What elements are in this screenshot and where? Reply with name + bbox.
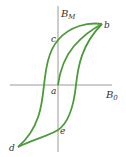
point-label-a: a (51, 86, 56, 96)
hysteresis-diagram: BM B0 a b c d e (0, 0, 126, 157)
point-label-c: c (51, 34, 56, 44)
horizontal-axis-label: B0 (105, 89, 118, 102)
point-label-b: b (104, 20, 110, 30)
point-label-d: d (9, 143, 15, 153)
point-label-e: e (60, 126, 65, 136)
vertical-axis-label: BM (60, 8, 76, 21)
